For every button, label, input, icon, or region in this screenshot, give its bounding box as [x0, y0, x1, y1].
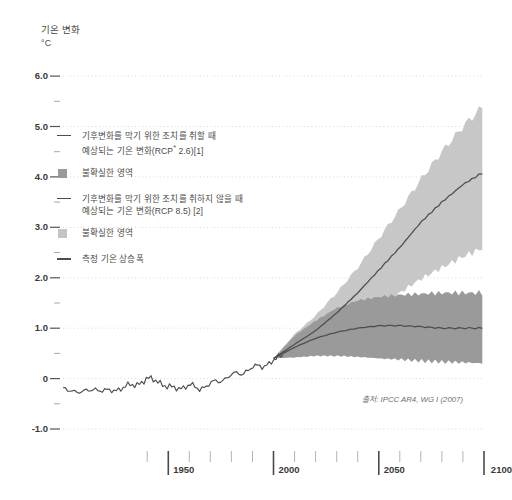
legend-area-swatch: [58, 229, 67, 238]
legend-item: 기후변화를 막기 위한 조치를 취할 때예상되는 기온 변화(RCP* 2.6)…: [57, 130, 272, 158]
legend-item: 기후변화를 막기 위한 조치를 취하지 않을 때예상되는 기온 변화(RCP 8…: [57, 193, 272, 218]
legend-item: 측정 기온 상승폭: [57, 253, 272, 265]
legend-area-swatch: [58, 169, 67, 178]
legend-line-marker: [57, 253, 75, 264]
source-note: 출처: IPCC AR4, WG I (2007): [362, 393, 463, 404]
line-observed: [63, 354, 283, 393]
y-axis-label: 3.0: [18, 221, 48, 232]
legend-line-marker: [57, 130, 75, 141]
legend-line-swatch: [57, 198, 71, 199]
x-axis-label: 2000: [279, 464, 300, 475]
legend-line-marker: [57, 193, 75, 204]
legend-item: 불확실한 영역: [57, 227, 272, 239]
x-axis-label: 2050: [384, 464, 405, 475]
y-axis-label: -1.0: [18, 423, 48, 434]
y-axis-label: 1.0: [18, 322, 48, 333]
legend-label: 불확실한 영역: [82, 227, 133, 239]
x-axis-label: 2100: [491, 464, 512, 475]
legend-label: 불확실한 영역: [82, 167, 133, 179]
legend-line-swatch: [57, 258, 71, 259]
legend-area-marker: [57, 167, 75, 178]
y-axis-label: 6.0: [18, 70, 48, 81]
legend-footnote-marker: *: [173, 144, 176, 151]
legend-area-marker: [57, 227, 75, 238]
legend-label: 측정 기온 상승폭: [82, 253, 144, 265]
legend-label: 기후변화를 막기 위한 조치를 취할 때예상되는 기온 변화(RCP* 2.6)…: [82, 130, 216, 158]
legend-line-swatch: [57, 135, 71, 136]
chart-legend: 기후변화를 막기 위한 조치를 취할 때예상되는 기온 변화(RCP* 2.6)…: [57, 130, 272, 275]
y-axis-label: 4.0: [18, 171, 48, 182]
x-axis-label: 1950: [173, 464, 194, 475]
legend-label: 기후변화를 막기 위한 조치를 취하지 않을 때예상되는 기온 변화(RCP 8…: [82, 193, 243, 218]
legend-item: 불확실한 영역: [57, 167, 272, 179]
y-axis-label: 2.0: [18, 272, 48, 283]
y-axis-label: 5.0: [18, 121, 48, 132]
y-axis-label: 0: [18, 373, 48, 384]
